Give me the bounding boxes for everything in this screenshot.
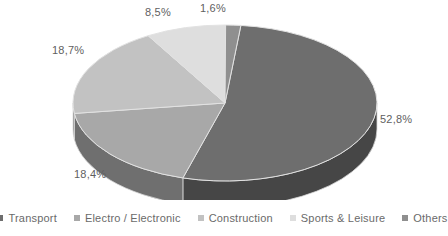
legend-label: Others — [413, 212, 447, 224]
legend-label: Transport — [8, 212, 56, 224]
slice-label-sports-leisure: 8,5% — [145, 6, 171, 18]
pie-chart: 52,8% 18,4% 18,7% 8,5% 1,6% — [0, 0, 445, 200]
pie-chart-graphic — [0, 0, 445, 200]
legend-swatch-icon — [290, 215, 296, 221]
legend-swatch-icon — [0, 215, 3, 221]
slice-label-electro-electronic: 18,4% — [74, 168, 106, 180]
pie-top-faces — [73, 25, 377, 181]
legend-label: Electro / Electronic — [85, 212, 181, 224]
legend-label: Construction — [209, 212, 273, 224]
legend-item-sports-leisure[interactable]: Sports & Leisure — [290, 212, 386, 224]
legend-item-others[interactable]: Others — [402, 212, 447, 224]
legend-swatch-icon — [74, 215, 80, 221]
chart-legend: Transport Electro / Electronic Construct… — [0, 205, 445, 231]
slice-label-transport: 52,8% — [380, 113, 412, 125]
legend-item-transport[interactable]: Transport — [0, 212, 57, 224]
legend-swatch-icon — [198, 215, 204, 221]
slice-label-construction: 18,7% — [52, 44, 84, 56]
legend-label: Sports & Leisure — [301, 212, 386, 224]
slice-label-others: 1,6% — [200, 2, 226, 14]
legend-swatch-icon — [402, 215, 408, 221]
legend-item-electro-electronic[interactable]: Electro / Electronic — [74, 212, 181, 224]
legend-item-construction[interactable]: Construction — [198, 212, 273, 224]
